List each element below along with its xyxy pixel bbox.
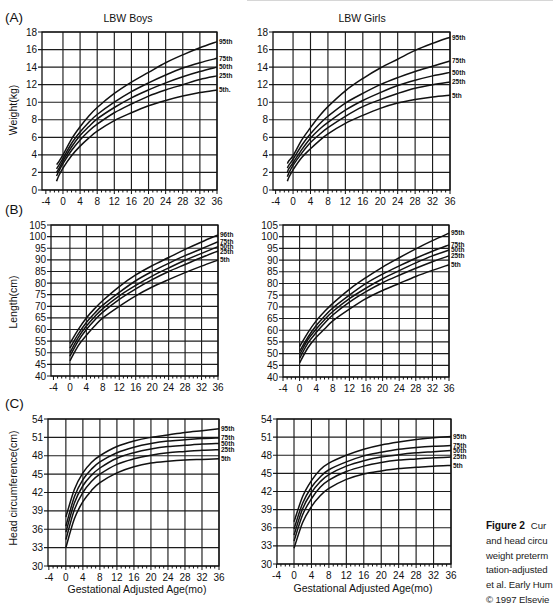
caption-line-2: and head circu xyxy=(486,534,553,549)
x-tick-label: 28 xyxy=(411,570,423,581)
y-tick-label: 105 xyxy=(29,220,46,231)
y-tick-label: 40 xyxy=(35,371,47,382)
y-tick-label: 90 xyxy=(35,254,47,265)
x-tick-label: 20 xyxy=(376,570,388,581)
y-tick-label: 39 xyxy=(261,504,273,515)
y-tick-label: 33 xyxy=(261,540,273,551)
x-tick-label: 28 xyxy=(410,196,422,207)
x-tick-label: 0 xyxy=(63,572,69,583)
percentile-label: 5th xyxy=(220,256,230,263)
percentile-label: 75th xyxy=(452,57,465,64)
x-tick-label: 32 xyxy=(428,570,440,581)
caption-line-3: weight preterm xyxy=(486,549,553,564)
x-tick-label: 32 xyxy=(427,196,439,207)
x-tick-label: 4 xyxy=(80,572,86,583)
percentile-label: 50th xyxy=(452,69,465,76)
y-tick-label: 10 xyxy=(257,97,269,108)
x-tick-label: 20 xyxy=(145,572,157,583)
percentile-label: 5th xyxy=(453,462,463,469)
caption-line-1: Figure 2Cur xyxy=(486,519,553,534)
x-tick-label: -4 xyxy=(41,196,50,207)
percentile-label: 25th xyxy=(453,453,466,460)
y-tick-label: 51 xyxy=(32,432,44,443)
y-tick-label: 65 xyxy=(267,313,279,324)
x-tick-label: 16 xyxy=(358,570,370,581)
x-tick-label: 16 xyxy=(130,382,142,393)
x-tick-label: 8 xyxy=(97,572,103,583)
plot-frame xyxy=(273,32,450,190)
y-tick-label: 16 xyxy=(257,44,269,55)
percentile-label: 25th xyxy=(220,248,233,255)
x-tick-label: 4 xyxy=(77,196,83,207)
percentile-label: 95th xyxy=(219,38,232,45)
chart-length-boys: 404550556065707580859095100105-404812162… xyxy=(29,220,233,394)
y-tick-label: 14 xyxy=(26,62,38,73)
x-tick-label: -4 xyxy=(279,383,288,394)
percentile-curve xyxy=(287,82,450,177)
y-tick-label: 45 xyxy=(267,360,279,371)
percentile-curve xyxy=(287,95,450,181)
percentile-label: 95th xyxy=(453,433,466,440)
x-tick-label: 8 xyxy=(326,570,332,581)
chart-weight-boys: 024681012141618-40481216202428323695th75… xyxy=(26,27,233,208)
y-tick-label: 55 xyxy=(267,336,279,347)
x-tick-label: 0 xyxy=(60,196,66,207)
percentile-curve xyxy=(287,72,450,172)
y-tick-label: 4 xyxy=(262,149,268,160)
chart-weight-girls: 024681012141618-40481216202428323695th75… xyxy=(257,27,466,208)
y-tick-label: 6 xyxy=(31,132,37,143)
x-tick-label: 32 xyxy=(427,383,439,394)
x-tick-label: 0 xyxy=(297,383,303,394)
y-tick-label: 12 xyxy=(257,79,269,90)
percentile-curve xyxy=(300,250,449,355)
y-tick-label: 4 xyxy=(31,149,37,160)
grid xyxy=(47,225,218,376)
y-tick-label: 36 xyxy=(32,524,44,535)
x-tick-label: 8 xyxy=(100,382,106,393)
percentile-label: 50th xyxy=(219,63,232,70)
x-tick-label: 8 xyxy=(325,196,331,207)
y-tick-label: 40 xyxy=(267,372,279,383)
x-tick-label: 28 xyxy=(177,196,189,207)
y-tick-label: 105 xyxy=(261,220,278,231)
x-tick-label: 32 xyxy=(196,572,208,583)
y-tick-label: 50 xyxy=(35,347,47,358)
x-tick-label: 4 xyxy=(313,383,319,394)
percentile-curve xyxy=(70,251,218,356)
x-tick-label: 20 xyxy=(377,383,389,394)
x-tick-label: -4 xyxy=(44,572,53,583)
x-tick-label: 36 xyxy=(443,383,455,394)
y-tick-label: 0 xyxy=(31,185,37,196)
plot-frame xyxy=(42,32,217,190)
x-tick-label: 24 xyxy=(160,196,172,207)
y-tick-label: 70 xyxy=(267,301,279,312)
x-tick-label: 16 xyxy=(357,196,369,207)
y-tick-label: 75 xyxy=(267,290,279,301)
y-tick-label: 0 xyxy=(262,185,268,196)
x-tick-label: 24 xyxy=(392,196,404,207)
y-tick-label: 2 xyxy=(31,167,37,178)
x-tick-label: 20 xyxy=(143,196,155,207)
y-tick-label: 2 xyxy=(262,167,268,178)
percentile-label: 95th xyxy=(452,34,465,41)
caption-line-5: et al. Early Hum xyxy=(486,578,553,593)
x-tick-label: 4 xyxy=(309,570,315,581)
x-tick-label: 28 xyxy=(179,572,191,583)
x-tick-label: 36 xyxy=(445,570,457,581)
percentile-curve xyxy=(70,247,218,353)
x-tick-label: 20 xyxy=(147,382,159,393)
chart-head-circumference-boys: 303336394245485154-40481216202428323695t… xyxy=(32,414,235,584)
y-tick-label: 30 xyxy=(32,561,44,572)
x-tick-label: 4 xyxy=(308,196,314,207)
percentile-label: 5th. xyxy=(219,86,231,93)
x-tick-label: 16 xyxy=(360,383,372,394)
x-tick-label: 0 xyxy=(290,196,296,207)
y-tick-label: 54 xyxy=(32,414,44,425)
y-tick-label: 6 xyxy=(262,132,268,143)
y-tick-label: 30 xyxy=(261,559,273,570)
y-tick-label: 90 xyxy=(267,255,279,266)
y-tick-label: 70 xyxy=(35,301,47,312)
y-tick-label: 14 xyxy=(257,62,269,73)
y-tick-label: 12 xyxy=(26,79,38,90)
y-tick-label: 85 xyxy=(267,266,279,277)
